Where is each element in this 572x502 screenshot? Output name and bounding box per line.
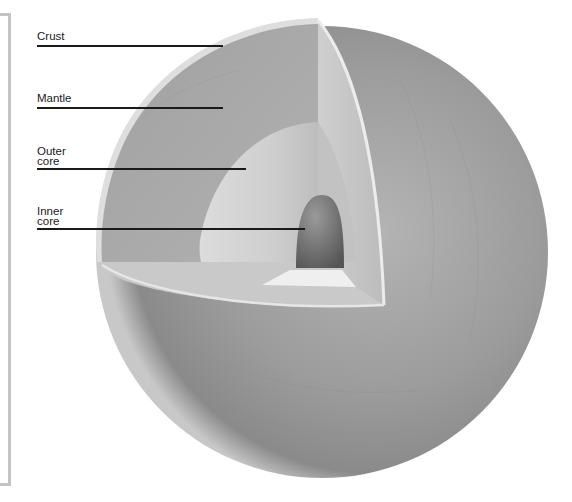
earth-cutaway-illustration: [0, 0, 572, 502]
label-crust-text: Crust: [37, 31, 64, 41]
label-crust: Crust: [37, 31, 64, 41]
label-mantle: Mantle: [37, 93, 72, 103]
label-outer-core: Outer core: [37, 146, 66, 166]
leader-line-inner-core: [37, 228, 305, 230]
label-outer-core-line2: core: [37, 156, 66, 166]
label-mantle-text: Mantle: [37, 93, 72, 103]
label-inner-core-line2: core: [37, 216, 63, 226]
leader-line-outer-core: [37, 168, 246, 170]
label-inner-core: Inner core: [37, 206, 63, 226]
leader-line-mantle: [37, 107, 223, 109]
leader-line-crust: [37, 45, 223, 47]
